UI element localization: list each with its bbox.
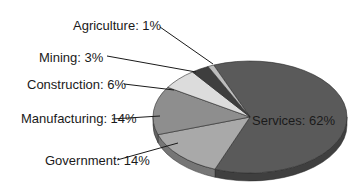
label-government: Government: 14% bbox=[45, 153, 150, 168]
label-agriculture: Agriculture: 1% bbox=[73, 18, 162, 33]
leader-line bbox=[160, 27, 213, 64]
label-services: Services: 62% bbox=[252, 113, 336, 128]
leader-line bbox=[107, 56, 196, 72]
label-mining: Mining: 3% bbox=[39, 50, 104, 65]
label-construction: Construction: 6% bbox=[27, 77, 126, 92]
pie-chart: Services: 62% Government: 14% Manufactur… bbox=[0, 0, 359, 182]
leader-line bbox=[124, 84, 174, 90]
label-manufacturing: Manufacturing: 14% bbox=[21, 111, 137, 126]
